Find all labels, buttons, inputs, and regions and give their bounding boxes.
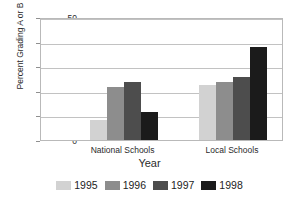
legend: 1995199619971998 bbox=[0, 180, 299, 191]
gridline bbox=[41, 68, 282, 69]
legend-swatch bbox=[153, 181, 168, 190]
legend-item: 1996 bbox=[105, 180, 146, 191]
legend-swatch bbox=[56, 181, 71, 190]
legend-item: 1997 bbox=[153, 180, 194, 191]
bar bbox=[233, 77, 250, 140]
y-axis-title: Percent Grading A or B bbox=[13, 0, 27, 111]
y-tick-mark bbox=[36, 141, 40, 142]
bar bbox=[141, 112, 158, 140]
bar bbox=[107, 87, 124, 140]
legend-label: 1996 bbox=[123, 180, 146, 191]
bar bbox=[216, 82, 233, 140]
legend-swatch bbox=[105, 181, 120, 190]
bar bbox=[250, 47, 267, 140]
gridline bbox=[41, 19, 282, 20]
legend-item: 1995 bbox=[56, 180, 97, 191]
x-category-label: Local Schools bbox=[172, 144, 292, 156]
legend-label: 1997 bbox=[171, 180, 194, 191]
legend-swatch bbox=[201, 181, 216, 190]
legend-item: 1998 bbox=[201, 180, 242, 191]
bar bbox=[199, 85, 216, 140]
bar bbox=[124, 82, 141, 140]
x-category-label: National Schools bbox=[63, 144, 183, 156]
legend-label: 1998 bbox=[219, 180, 242, 191]
gridline bbox=[41, 44, 282, 45]
x-axis-title: Year bbox=[0, 157, 299, 169]
legend-label: 1995 bbox=[74, 180, 97, 191]
bar bbox=[90, 120, 107, 140]
plot-area bbox=[40, 18, 283, 141]
bar-chart: Percent Grading A or B 01020304050 Natio… bbox=[0, 0, 299, 203]
